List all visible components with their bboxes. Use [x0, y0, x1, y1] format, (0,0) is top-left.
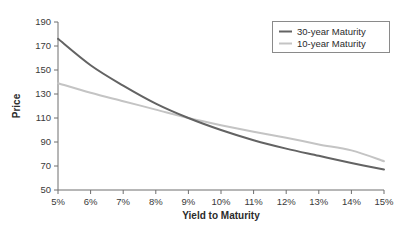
y-tick-label: 110: [36, 112, 51, 123]
x-tick-label: 13%: [309, 196, 329, 207]
chart-figure: 507090110130150170190 5%6%7%8%9%10%11%12…: [0, 0, 412, 245]
y-axis-ticks: [54, 22, 58, 190]
y-tick-label: 190: [35, 16, 51, 27]
x-axis-tick-labels: 5%6%7%8%9%10%11%12%13%14%15%: [51, 196, 394, 207]
legend-label-10-year: 10-year Maturity: [297, 38, 366, 49]
x-axis-ticks: [58, 190, 384, 194]
x-axis-title: Yield to Maturity: [182, 210, 260, 221]
y-axis-tick-labels: 507090110130150170190: [35, 16, 51, 195]
x-tick-label: 6%: [84, 196, 98, 207]
chart-legend: 30-year Maturity 10-year Maturity: [273, 22, 390, 53]
x-tick-label: 12%: [277, 196, 297, 207]
x-tick-label: 8%: [149, 196, 163, 207]
series-lines: [58, 39, 384, 170]
series-line-10-year-maturity: [58, 83, 384, 161]
y-tick-label: 50: [40, 184, 51, 195]
y-tick-label: 70: [40, 160, 51, 171]
y-tick-label: 170: [35, 40, 51, 51]
y-tick-label: 150: [35, 64, 51, 75]
x-tick-label: 11%: [244, 196, 263, 207]
y-axis-title: Price: [11, 93, 22, 118]
y-tick-label: 90: [40, 136, 51, 147]
x-tick-label: 15%: [374, 196, 394, 207]
x-tick-label: 9%: [182, 196, 196, 207]
price-yield-line-chart: 507090110130150170190 5%6%7%8%9%10%11%12…: [0, 0, 412, 245]
series-line-30-year-maturity: [58, 39, 384, 170]
x-tick-label: 5%: [51, 196, 65, 207]
x-tick-label: 10%: [211, 196, 231, 207]
x-tick-label: 14%: [342, 196, 362, 207]
legend-label-30-year: 30-year Maturity: [297, 26, 366, 37]
y-tick-label: 130: [35, 88, 51, 99]
x-tick-label: 7%: [116, 196, 130, 207]
